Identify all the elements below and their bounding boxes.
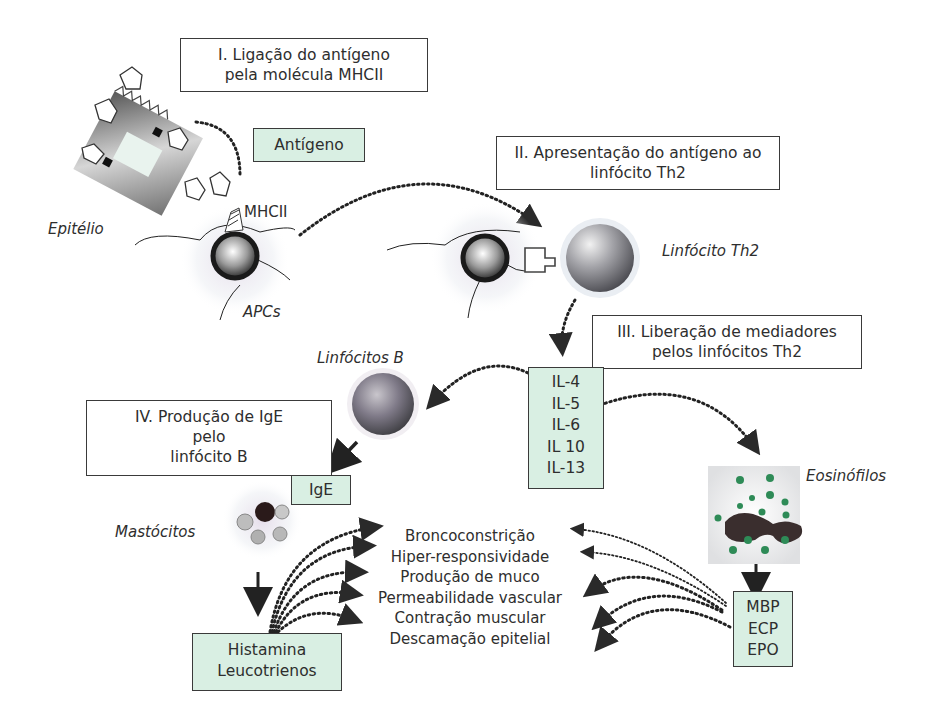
step-4-box: IV. Produção de IgE pelo linfócito B — [86, 400, 332, 476]
step-2-box: II. Apresentação do antígeno ao linfócit… — [496, 136, 780, 190]
mast-cells-label: Mastócitos — [115, 523, 195, 541]
effect-item: Permeabilidade vascular — [360, 588, 580, 609]
eosinophils-label: Eosinófilos — [806, 467, 886, 485]
mediator-mbp: MBP — [734, 597, 792, 619]
b-lymphocyte — [347, 368, 419, 440]
cytokine-box: IL-4 IL-5 IL-6 IL 10 IL-13 — [528, 367, 604, 489]
step-2-line-1: II. Apresentação do antígeno ao — [497, 143, 779, 163]
effect-item: Produção de muco — [360, 567, 580, 588]
mediator-ecp: ECP — [734, 619, 792, 641]
step-1-line-1: I. Ligação do antígeno — [181, 45, 427, 65]
eosinophil-mediators-box: MBP ECP EPO — [733, 591, 793, 667]
cytokine-il10: IL 10 — [529, 437, 603, 459]
mhcii-label: MHCII — [244, 203, 288, 221]
cytokine-il5: IL-5 — [529, 394, 603, 416]
step-3-line-2: pelos linfócitos Th2 — [593, 342, 861, 362]
antigen-label: Antígeno — [274, 136, 344, 154]
effect-item: Contração muscular — [360, 608, 580, 629]
step-1-line-2: pela molécula MHCII — [181, 65, 427, 85]
step-2-line-2: linfócito Th2 — [497, 163, 779, 183]
step-4-line-3: linfócito B — [87, 447, 331, 467]
b-cells-label: Linfócitos B — [317, 349, 404, 367]
mediator-histamine: Histamina — [193, 640, 341, 661]
effects-list: Broncoconstrição Hiper-responsividade Pr… — [360, 526, 580, 649]
mast-mediators-box: Histamina Leucotrienos — [192, 633, 342, 691]
cytokine-il4: IL-4 — [529, 372, 603, 394]
effect-item: Hiper-responsividade — [360, 547, 580, 568]
step-4-line-1: IV. Produção de IgE — [87, 407, 331, 427]
effect-item: Descamação epitelial — [360, 629, 580, 650]
ige-label: IgE — [309, 481, 333, 499]
th2-lymphocyte — [560, 218, 640, 298]
ige-box: IgE — [291, 475, 351, 505]
epithelium-label: Epitélio — [48, 220, 104, 238]
effect-item: Broncoconstrição — [360, 526, 580, 547]
cytokine-il6: IL-6 — [529, 415, 603, 437]
th2-label: Linfócito Th2 — [662, 242, 759, 260]
mediator-leukotrienes: Leucotrienos — [193, 661, 341, 682]
mast-cell — [222, 480, 302, 560]
cytokine-il13: IL-13 — [529, 458, 603, 480]
step-4-line-2: pelo — [87, 427, 331, 447]
step-1-box: I. Ligação do antígeno pela molécula MHC… — [180, 38, 428, 92]
apcs-label: APCs — [243, 303, 281, 321]
eosinophil-effect-arrows — [575, 529, 730, 645]
mediator-epo: EPO — [734, 640, 792, 662]
eosinophil-cell — [708, 466, 802, 564]
step-3-box: III. Liberação de mediadores pelos linfó… — [592, 315, 862, 369]
antigen-box: Antígeno — [253, 128, 365, 162]
step-3-line-1: III. Liberação de mediadores — [593, 322, 861, 342]
